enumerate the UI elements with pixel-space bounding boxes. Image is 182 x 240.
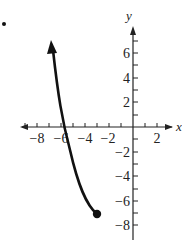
x-tick-label: −4 <box>78 131 93 146</box>
y-tick-label: −6 <box>115 194 130 209</box>
y-axis-label: y <box>124 8 132 23</box>
x-tick-label: −8 <box>30 131 45 146</box>
y-axis: 6 4 2 −2 −4 −6 −8 y <box>115 8 138 240</box>
curve-arrow-icon <box>47 40 57 54</box>
y-tick-label: 2 <box>123 95 130 110</box>
y-tick-label: −4 <box>115 169 130 184</box>
graph: −8 −6 −4 −2 2 x 6 4 2 −2 <box>0 0 182 240</box>
closed-endpoint-dot-icon <box>93 210 101 218</box>
x-tick-label: −2 <box>101 131 116 146</box>
y-tick-label: 6 <box>123 46 130 61</box>
y-tick-label: −8 <box>115 218 130 233</box>
function-curve <box>47 40 101 218</box>
y-axis-up-arrow-icon <box>130 26 136 35</box>
x-axis-right-arrow-icon <box>165 124 173 130</box>
y-tick-label: −2 <box>115 145 130 160</box>
x-tick-label: 2 <box>154 131 161 146</box>
x-axis-label: x <box>175 119 182 134</box>
x-axis: −8 −6 −4 −2 2 x <box>20 119 182 146</box>
y-tick-label: 4 <box>123 71 130 86</box>
x-axis-left-arrow-icon <box>20 124 28 130</box>
